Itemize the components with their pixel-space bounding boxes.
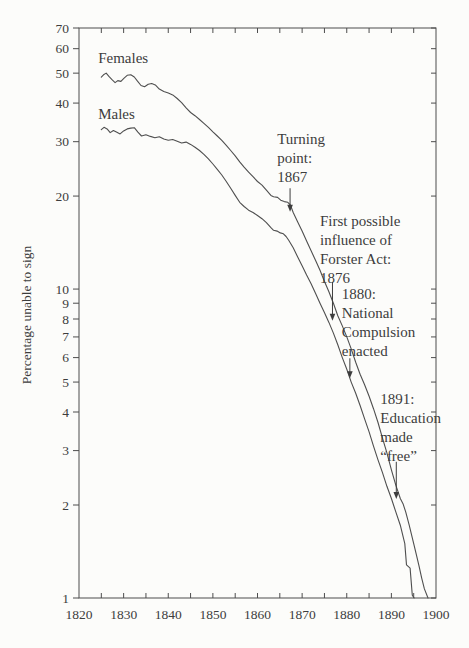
series-label-males: Males [98, 106, 135, 123]
x-tick-label: 1890 [378, 607, 405, 622]
annotation-line: influence of [320, 231, 400, 250]
y-axis-title: Percentage unable to sign [19, 205, 37, 425]
y-tick-label: 20 [56, 189, 70, 204]
y-tick-label: 10 [56, 282, 70, 297]
x-tick-label: 1820 [66, 607, 93, 622]
y-tick-label: 70 [56, 21, 70, 36]
annotation-line: “free” [380, 447, 441, 466]
y-tick-label: 4 [62, 405, 69, 420]
annotation-line: 1867 [277, 168, 325, 187]
annotation-education-free: 1891: Education made “free” [380, 390, 441, 466]
y-tick-label: 1 [62, 591, 69, 606]
annotation-line: Forster Act: [320, 250, 400, 269]
annotation-line: Education [380, 409, 441, 428]
y-tick-label: 30 [56, 134, 70, 149]
y-tick-label: 50 [56, 66, 70, 81]
x-tick-label: 1870 [289, 607, 316, 622]
y-tick-label: 8 [62, 312, 69, 327]
y-tick-label: 60 [56, 41, 70, 56]
series-line-males [101, 127, 414, 598]
annotation-line: made [380, 428, 441, 447]
y-tick-label: 40 [56, 96, 70, 111]
y-tick-label: 9 [62, 296, 69, 311]
annotation-forster-act: First possible influence of Forster Act:… [320, 212, 400, 288]
y-tick-label: 6 [62, 350, 69, 365]
annotation-arrowhead [393, 492, 399, 499]
x-tick-label: 1830 [110, 607, 137, 622]
series-label-females: Females [98, 50, 148, 67]
annotation-arrowhead [330, 314, 336, 321]
annotation-line: Turning [277, 130, 325, 149]
annotation-line: National [342, 304, 415, 323]
y-tick-label: 5 [62, 375, 69, 390]
x-tick-label: 1880 [333, 607, 360, 622]
annotation-national-compulsion: 1880: National Compulsion enacted [342, 285, 415, 361]
illiteracy-line-chart: 1820183018401850186018701880189019007060… [0, 0, 469, 648]
y-tick-label: 2 [62, 498, 69, 513]
annotation-arrowhead [347, 371, 353, 378]
x-tick-label: 1860 [244, 607, 271, 622]
annotation-line: 1891: [380, 390, 441, 409]
y-tick-label: 7 [62, 329, 69, 344]
annotation-line: enacted [342, 342, 415, 361]
y-tick-label: 3 [62, 443, 69, 458]
x-tick-label: 1900 [423, 607, 450, 622]
annotation-line: First possible [320, 212, 400, 231]
annotation-line: 1880: [342, 285, 415, 304]
annotation-line: Compulsion [342, 323, 415, 342]
annotation-turning-point: Turning point: 1867 [277, 130, 325, 187]
annotation-line: point: [277, 149, 325, 168]
x-tick-label: 1840 [155, 607, 182, 622]
x-tick-label: 1850 [199, 607, 226, 622]
